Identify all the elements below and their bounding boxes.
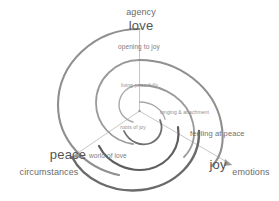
arrow-heads: [72, 152, 232, 166]
arc-joy-inner: [140, 85, 194, 157]
arc-peace-core: [124, 120, 162, 144]
spiral-arm-joy: [140, 60, 223, 166]
center-hub: [138, 110, 140, 112]
arrow-head-peace: [72, 152, 80, 158]
spiral-diagram-svg: [0, 0, 279, 201]
arc-peace-outer: [72, 131, 199, 190]
arc-joy-outer: [140, 60, 223, 166]
arc-joy-core: [140, 102, 166, 119]
radial-line-lower-left: [72, 111, 140, 157]
arc-love-outer: [58, 29, 140, 175]
spiral-diagram-canvas: agency love opening to joy living peacef…: [0, 0, 279, 201]
spiral-arm-love: [58, 29, 140, 175]
arc-love-core: [119, 85, 140, 122]
arc-love-inner: [96, 60, 140, 144]
arrow-head-joy: [224, 159, 232, 166]
spiral-arm-peace: [72, 120, 199, 190]
